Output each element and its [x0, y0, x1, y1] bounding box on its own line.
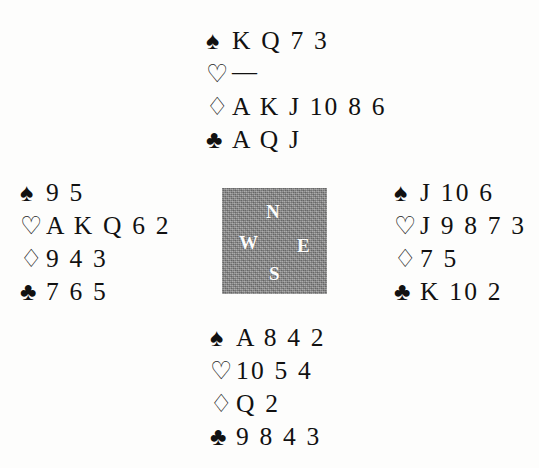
hand-north: ♠ K Q 7 3 ♡ — ♢ A K J 10 8 6 ♣ A Q J — [206, 24, 387, 156]
east-hearts-ranks: J 9 8 7 3 — [420, 209, 526, 242]
north-clubs-row: ♣ A Q J — [206, 123, 387, 156]
west-clubs-row: ♣ 7 6 5 — [20, 275, 171, 308]
heart-icon: ♡ — [206, 57, 232, 90]
north-spades-ranks: K Q 7 3 — [232, 24, 329, 57]
club-icon: ♣ — [210, 420, 236, 453]
diamond-icon: ♢ — [206, 90, 232, 123]
compass-box: N W E S — [222, 188, 327, 294]
south-diamonds-ranks: Q 2 — [236, 387, 280, 420]
east-clubs-ranks: K 10 2 — [420, 275, 503, 308]
heart-icon: ♡ — [20, 209, 46, 242]
club-icon: ♣ — [20, 275, 46, 308]
diamond-icon: ♢ — [210, 387, 236, 420]
spade-icon: ♠ — [210, 321, 236, 354]
west-hearts-ranks: A K Q 6 2 — [46, 209, 171, 242]
club-icon: ♣ — [206, 123, 232, 156]
hand-west: ♠ 9 5 ♡ A K Q 6 2 ♢ 9 4 3 ♣ 7 6 5 — [20, 176, 171, 308]
spade-icon: ♠ — [20, 176, 46, 209]
south-hearts-ranks: 10 5 4 — [236, 354, 313, 387]
south-diamonds-row: ♢ Q 2 — [210, 387, 326, 420]
diamond-icon: ♢ — [20, 242, 46, 275]
bridge-deal-diagram: ♠ K Q 7 3 ♡ — ♢ A K J 10 8 6 ♣ A Q J ♠ 9… — [0, 0, 539, 468]
spade-icon: ♠ — [206, 24, 232, 57]
south-spades-ranks: A 8 4 2 — [236, 321, 326, 354]
north-diamonds-ranks: A K J 10 8 6 — [232, 90, 387, 123]
north-spades-row: ♠ K Q 7 3 — [206, 24, 387, 57]
west-hearts-row: ♡ A K Q 6 2 — [20, 209, 171, 242]
compass-label-east: E — [297, 236, 310, 255]
east-diamonds-row: ♢ 7 5 — [394, 242, 526, 275]
east-diamonds-ranks: 7 5 — [420, 242, 458, 275]
west-spades-ranks: 9 5 — [46, 176, 84, 209]
west-clubs-ranks: 7 6 5 — [46, 275, 108, 308]
south-spades-row: ♠ A 8 4 2 — [210, 321, 326, 354]
east-spades-row: ♠ J 10 6 — [394, 176, 526, 209]
south-clubs-ranks: 9 8 4 3 — [236, 420, 322, 453]
south-hearts-row: ♡ 10 5 4 — [210, 354, 326, 387]
compass-label-west: W — [239, 233, 258, 252]
east-clubs-row: ♣ K 10 2 — [394, 275, 526, 308]
west-diamonds-row: ♢ 9 4 3 — [20, 242, 171, 275]
heart-icon: ♡ — [394, 209, 420, 242]
north-hearts-ranks: — — [232, 55, 257, 88]
west-spades-row: ♠ 9 5 — [20, 176, 171, 209]
spade-icon: ♠ — [394, 176, 420, 209]
heart-icon: ♡ — [210, 354, 236, 387]
north-diamonds-row: ♢ A K J 10 8 6 — [206, 90, 387, 123]
north-hearts-row: ♡ — — [206, 57, 387, 90]
hand-east: ♠ J 10 6 ♡ J 9 8 7 3 ♢ 7 5 ♣ K 10 2 — [394, 176, 526, 308]
east-spades-ranks: J 10 6 — [420, 176, 494, 209]
west-diamonds-ranks: 9 4 3 — [46, 242, 108, 275]
compass-label-south: S — [269, 264, 280, 283]
south-clubs-row: ♣ 9 8 4 3 — [210, 420, 326, 453]
compass-label-north: N — [266, 202, 280, 221]
hand-south: ♠ A 8 4 2 ♡ 10 5 4 ♢ Q 2 ♣ 9 8 4 3 — [210, 321, 326, 453]
club-icon: ♣ — [394, 275, 420, 308]
east-hearts-row: ♡ J 9 8 7 3 — [394, 209, 526, 242]
north-clubs-ranks: A Q J — [232, 123, 301, 156]
diamond-icon: ♢ — [394, 242, 420, 275]
